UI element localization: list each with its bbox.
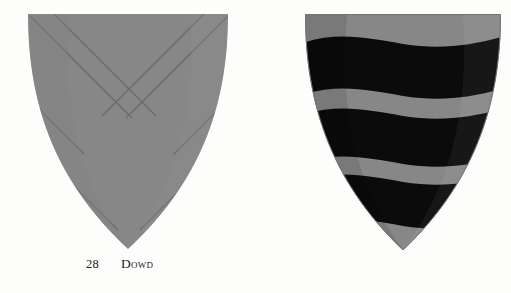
shield-drummond [255,0,511,256]
shield-panel-dowd: 28Dowd [0,0,256,293]
shield-dowd [0,0,256,256]
entry-name-dowd: Dowd [121,256,153,271]
entry-number-dowd: 28 [86,257,99,271]
heraldic-plate-page: 28Dowd 2 [0,0,511,293]
caption-dowd: 28Dowd [86,257,153,271]
shield-panel-drummond: 29Drummond [255,0,511,293]
